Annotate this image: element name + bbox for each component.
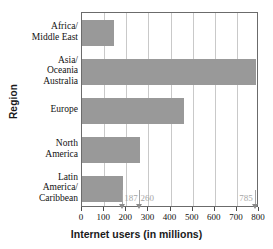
annotation-label: 260 [141,193,155,203]
bar [82,98,184,124]
bar-chart: Region Africa/Middle EastAsia/OceaniaAus… [0,0,273,249]
annotation-marker-icon [119,204,125,209]
x-axis-title: Internet users (in millions) [0,228,273,240]
x-tick-mark [103,207,104,211]
bar [82,176,123,202]
plot-area [81,12,258,207]
annotation-label: 785 [239,193,253,203]
x-tick-mark [258,207,259,211]
annotation-label: 187 [124,193,138,203]
category-label: Europe [14,104,78,115]
x-tick-mark [81,207,82,211]
category-axis-labels: Africa/Middle EastAsia/OceaniaAustraliaE… [14,12,78,207]
bar [82,59,256,85]
gridline [193,13,194,206]
x-tick-mark [125,207,126,211]
annotation-stem [122,190,123,204]
x-tick-label: 800 [243,212,273,222]
gridline [237,13,238,206]
x-tick-mark [236,207,237,211]
annotation-stem [255,190,256,204]
x-tick-mark [214,207,215,211]
bar [82,137,140,163]
annotation-stem [139,190,140,204]
x-tick-mark [192,207,193,211]
x-tick-mark [170,207,171,211]
category-label: NorthAmerica [14,138,78,159]
gridline [215,13,216,206]
bar [82,20,114,46]
category-label: LatinAmerica/Caribbean [14,172,78,204]
annotation-marker-icon [252,204,258,209]
annotation-marker-icon [136,204,142,209]
x-tick-mark [147,207,148,211]
category-label: Africa/Middle East [14,21,78,42]
category-label: Asia/OceaniaAustralia [14,55,78,87]
